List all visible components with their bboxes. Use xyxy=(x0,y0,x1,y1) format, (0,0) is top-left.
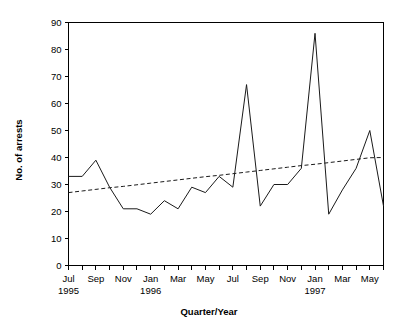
axis-frame-path xyxy=(69,23,384,266)
y-tick-label: 60 xyxy=(51,98,62,109)
x-tick-label: May xyxy=(196,273,214,284)
x-tick-label: Mar xyxy=(170,273,186,284)
x-axis-year-label: 1996 xyxy=(140,285,161,296)
data-series-group xyxy=(69,33,384,214)
y-tick-label: 40 xyxy=(51,152,62,163)
x-tick-label: Nov xyxy=(279,273,296,284)
x-axis-ticks xyxy=(69,266,384,270)
x-tick-label: Jul xyxy=(62,273,74,284)
x-axis-labels: JulSepNovJanMarMayJulSepNovJanMarMay xyxy=(62,273,379,284)
x-tick-label: Nov xyxy=(115,273,132,284)
y-tick-label: 90 xyxy=(51,17,62,28)
y-tick-label: 0 xyxy=(56,260,61,271)
y-tick-label: 50 xyxy=(51,125,62,136)
x-tick-label: Jul xyxy=(227,273,239,284)
y-axis-ticks: 0102030405060708090 xyxy=(51,17,69,271)
trend-line xyxy=(69,158,384,193)
arrests-line-chart: 0102030405060708090 JulSepNovJanMarMayJu… xyxy=(0,0,398,323)
x-tick-label: Jan xyxy=(307,273,322,284)
y-tick-label: 70 xyxy=(51,71,62,82)
x-axis-year-label: 1997 xyxy=(304,285,325,296)
chart-figure: 0102030405060708090 JulSepNovJanMarMayJu… xyxy=(0,0,398,323)
x-axis-title: Quarter/Year xyxy=(180,306,237,317)
x-tick-label: Sep xyxy=(252,273,269,284)
x-tick-label: Jan xyxy=(143,273,158,284)
y-tick-label: 30 xyxy=(51,179,62,190)
plot-frame xyxy=(69,23,384,266)
y-tick-label: 80 xyxy=(51,44,62,55)
x-axis-year-labels: 199519961997 xyxy=(58,285,326,296)
y-tick-label: 10 xyxy=(51,233,62,244)
y-tick-label: 20 xyxy=(51,206,62,217)
x-tick-label: Sep xyxy=(87,273,104,284)
y-axis-title: No. of arrests xyxy=(13,119,24,180)
x-tick-label: May xyxy=(361,273,379,284)
x-axis-year-label: 1995 xyxy=(58,285,79,296)
x-tick-label: Mar xyxy=(334,273,350,284)
